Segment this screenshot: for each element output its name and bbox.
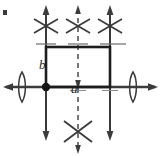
lattice-vector-b-label: b — [39, 58, 46, 71]
down-arrow-right-icon — [107, 131, 114, 141]
left-arrow-icon — [3, 83, 13, 91]
right-arrow-icon — [148, 83, 158, 91]
down-arrow-left-icon — [43, 131, 50, 141]
down-arrow-center-icon — [75, 145, 81, 154]
up-arrow-left-icon — [43, 5, 50, 15]
vertical-axis-center-group — [64, 5, 92, 154]
diagram-canvas — [0, 0, 161, 156]
glide-tick-marks-group — [36, 44, 126, 91]
lattice-vector-a-label: a — [71, 82, 78, 95]
up-arrow-right-icon — [107, 5, 114, 15]
symmetry-diagram-figure: b a — [0, 0, 161, 156]
up-arrow-center-icon — [75, 5, 81, 14]
origin-lattice-point — [42, 83, 50, 91]
corner-artifact — [3, 10, 7, 15]
